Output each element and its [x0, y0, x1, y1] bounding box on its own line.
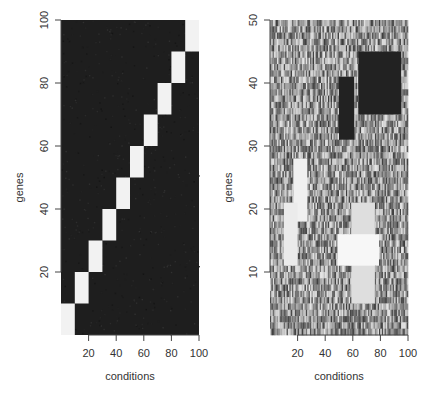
y-tick-label: 50 — [247, 14, 259, 26]
x-tick-label: 20 — [82, 347, 94, 359]
bicluster-block — [171, 52, 185, 84]
y-tick-label: 10 — [247, 266, 259, 278]
x-tick-label: 60 — [347, 347, 359, 359]
bicluster-block — [358, 52, 401, 115]
bicluster-block — [102, 209, 116, 241]
x-tick-label: 40 — [110, 347, 122, 359]
heatmap-right-panel: 20406080100 1020304050 conditions genes — [222, 14, 417, 382]
y-axis-label: genes — [13, 172, 25, 202]
x-tick-label: 20 — [291, 347, 303, 359]
x-axis-label: conditions — [314, 370, 364, 382]
bicluster-block — [75, 272, 89, 304]
x-tick-label: 40 — [319, 347, 331, 359]
bicluster-block — [284, 203, 298, 266]
x-tick-label: 80 — [374, 347, 386, 359]
y-tick-label: 20 — [247, 203, 259, 215]
y-tick-label: 100 — [38, 11, 50, 29]
x-tick-label: 60 — [138, 347, 150, 359]
bicluster-block — [339, 77, 354, 140]
x-tick-label: 100 — [190, 347, 208, 359]
y-tick-label: 40 — [38, 203, 50, 215]
x-tick-label: 100 — [399, 347, 417, 359]
bicluster-block — [338, 234, 379, 266]
y-tick-label: 80 — [38, 77, 50, 89]
bicluster-block — [158, 83, 172, 115]
x-axis: 20406080100 — [82, 335, 208, 359]
y-tick-label: 60 — [38, 140, 50, 152]
figure: 20406080100 20406080100 conditions genes… — [0, 0, 427, 394]
heatmap-left-panel: 20406080100 20406080100 conditions genes — [13, 11, 208, 382]
y-tick-label: 20 — [38, 266, 50, 278]
y-tick-label: 30 — [247, 140, 259, 152]
x-axis: 20406080100 — [291, 335, 417, 359]
bicluster-block — [185, 20, 199, 52]
bicluster-block — [116, 178, 130, 210]
y-axis: 1020304050 — [247, 14, 270, 278]
x-tick-label: 80 — [165, 347, 177, 359]
bicluster-block — [130, 146, 144, 178]
bicluster-block — [61, 304, 75, 336]
y-axis: 20406080100 — [38, 11, 61, 278]
y-tick-label: 40 — [247, 77, 259, 89]
x-axis-label: conditions — [105, 370, 155, 382]
bicluster-block — [144, 115, 158, 147]
y-axis-label: genes — [222, 172, 234, 202]
bicluster-block — [89, 241, 103, 273]
